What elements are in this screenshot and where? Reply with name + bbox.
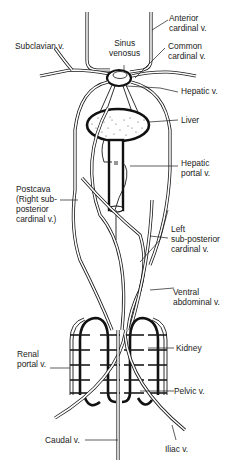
label-common-cardinal-v: Common cardinal v. xyxy=(168,41,206,61)
label-caudal-v: Caudal v. xyxy=(45,435,80,445)
label-sinus-venosus: Sinus venosus xyxy=(109,38,140,58)
label-hepatic-v: Hepatic v. xyxy=(181,86,218,96)
label-anterior-cardinal-v: Anterior cardinal v. xyxy=(169,13,207,33)
label-hepatic-portal-v: Hepatic portal v. xyxy=(181,158,210,178)
label-kidney: Kidney xyxy=(176,343,202,353)
label-postcava: Postcava (Right sub- posterior cardinal … xyxy=(16,184,57,224)
label-renal-portal-v: Renal portal v. xyxy=(17,349,46,369)
sinus-venosus xyxy=(107,70,131,86)
label-ventral-abdominal-v: Ventral abdominal v. xyxy=(173,287,220,307)
label-iliac-v: Iliac v. xyxy=(165,444,188,454)
label-pelvic-v: Pelvic v. xyxy=(174,386,205,396)
label-left-sub-posterior-cardinal-v: Left sub-posterior cardinal v. xyxy=(171,224,220,254)
label-liver: Liver xyxy=(181,115,199,125)
label-subclavian-v: Subclavian v. xyxy=(15,41,64,51)
